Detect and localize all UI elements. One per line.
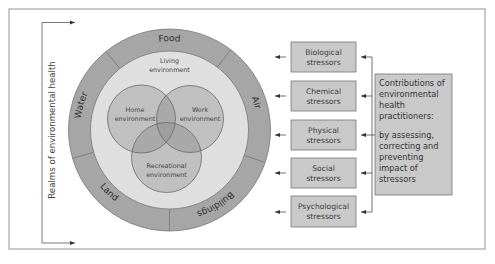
stressor-box-biological: Biological stressors [291,42,356,72]
svg-text:stressors: stressors [306,136,340,145]
svg-text:stressors: stressors [306,58,340,67]
living-env-label-2: environment [149,66,190,74]
stressor-box-chemical: Chemical stressors [291,81,356,111]
svg-text:environmental: environmental [379,89,438,99]
svg-text:Biological: Biological [305,48,342,57]
svg-text:Social: Social [312,164,335,173]
ring-label-food: Food [158,33,181,44]
svg-text:Psychological: Psychological [298,202,349,211]
recreational-env-label-1: Recreational [147,162,187,170]
stressor-box-physical: Physical stressors [291,120,356,150]
svg-text:Chemical: Chemical [306,87,341,96]
svg-text:health: health [379,100,405,110]
svg-text:Contributions of: Contributions of [379,78,446,88]
svg-text:stressors: stressors [306,174,340,183]
work-env-label-2: environment [180,115,221,123]
svg-text:by assessing,: by assessing, [379,130,434,140]
environmental-health-diagram: Realms of environmental health Food Air … [0,0,495,264]
realms-axis-label: Realms of environmental health [47,61,57,198]
svg-text:practitioners:: practitioners: [379,111,434,121]
living-env-label-1: Living [160,57,179,65]
svg-text:Physical: Physical [308,126,339,135]
home-env-label-1: Home [126,106,145,114]
svg-text:correcting and: correcting and [379,141,438,151]
svg-text:preventing: preventing [379,152,423,162]
svg-text:stressors: stressors [379,174,416,184]
home-env-label-2: environment [115,115,156,123]
stressor-box-social: Social stressors [291,158,356,188]
svg-text:stressors: stressors [306,212,340,221]
contributions-box: Contributions of environmental health pr… [375,74,452,195]
stressor-box-psychological: Psychological stressors [291,196,356,227]
svg-text:stressors: stressors [306,97,340,106]
work-env-label-1: Work [192,106,208,114]
recreational-env-label-2: environment [146,171,187,179]
svg-text:impact of: impact of [379,163,419,173]
